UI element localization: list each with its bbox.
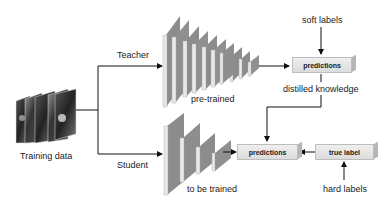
to-be-trained-label: to be trained [187,184,237,194]
soft-labels-label: soft labels [302,15,343,25]
training-data-label: Training data [20,151,72,161]
true-label-box: true label [315,144,374,160]
student-network [164,113,231,195]
training-data-images [16,89,76,143]
student-branch-label: Student [117,160,148,170]
branch-connector [76,66,162,154]
pre-trained-label: pre-trained [191,94,235,104]
distilled-knowledge-connector [267,95,321,141]
hard-labels-label: hard labels [323,184,367,194]
teacher-predictions-box: predictions [292,57,352,73]
teacher-branch-label: Teacher [117,50,149,60]
student-predictions-box: predictions [237,144,298,160]
distilled-knowledge-label: distilled knowledge [283,84,359,94]
